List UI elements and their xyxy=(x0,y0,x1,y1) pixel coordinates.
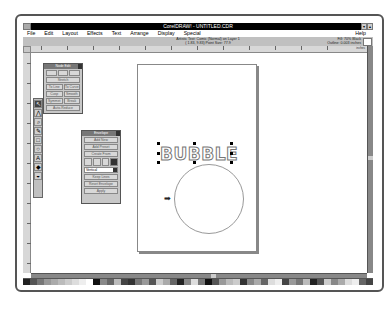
selection-handle[interactable] xyxy=(230,161,233,164)
palette-swatch[interactable] xyxy=(107,279,114,285)
menu-display[interactable]: Display xyxy=(158,30,175,37)
palette-swatch[interactable] xyxy=(114,279,121,285)
palette-swatch[interactable] xyxy=(65,279,72,285)
menu-text[interactable]: Text xyxy=(112,30,122,37)
palette-swatch[interactable] xyxy=(135,279,142,285)
palette-swatch[interactable] xyxy=(128,279,135,285)
text-tool-icon[interactable]: A xyxy=(34,154,42,162)
cusp-button[interactable]: Cusp xyxy=(46,91,63,97)
ruler-corner[interactable] xyxy=(23,46,31,53)
menu-help[interactable]: Help xyxy=(355,30,366,37)
pencil-tool-icon[interactable]: ✎ xyxy=(34,127,42,135)
menu-arrange[interactable]: Arrange xyxy=(130,30,148,37)
auto-reduce-button[interactable]: Auto-Reduce xyxy=(46,105,80,111)
vertical-scroll-thumb[interactable] xyxy=(368,156,373,160)
envelope-straight-line-icon[interactable] xyxy=(84,158,92,166)
palette-swatch[interactable] xyxy=(282,279,289,285)
menu-special[interactable]: Special xyxy=(184,30,201,37)
palette-swatch[interactable] xyxy=(233,279,240,285)
ellipse-object[interactable] xyxy=(174,164,244,234)
palette-swatch[interactable] xyxy=(219,279,226,285)
palette-swatch[interactable] xyxy=(51,279,58,285)
pick-tool-icon[interactable]: ↖ xyxy=(34,100,42,108)
to-line-button[interactable]: To Line xyxy=(46,84,63,90)
palette-swatch[interactable] xyxy=(184,279,191,285)
envelope-unconstrained-icon[interactable] xyxy=(110,158,118,166)
zoom-tool-icon[interactable]: ⌕ xyxy=(34,118,42,126)
palette-swatch[interactable] xyxy=(205,279,212,285)
node-delete-icon[interactable] xyxy=(58,70,69,76)
rollup-title[interactable]: Envelope xyxy=(82,131,120,136)
stretch-button[interactable]: Stretch xyxy=(46,77,80,83)
palette-swatch[interactable] xyxy=(317,279,324,285)
palette-swatch[interactable] xyxy=(170,279,177,285)
reset-envelope-button[interactable]: Reset Envelope xyxy=(84,181,118,187)
menu-file[interactable]: File xyxy=(27,30,35,37)
vertical-scrollbar[interactable] xyxy=(367,46,373,273)
palette-swatch[interactable] xyxy=(72,279,79,285)
maximize-button[interactable]: ▴ xyxy=(367,23,373,30)
palette-swatch[interactable] xyxy=(240,279,247,285)
menu-layout[interactable]: Layout xyxy=(62,30,78,37)
palette-swatch[interactable] xyxy=(93,279,100,285)
ellipse-tool-icon[interactable]: ○ xyxy=(34,145,42,153)
palette-swatch[interactable] xyxy=(345,279,352,285)
palette-swatch[interactable] xyxy=(303,279,310,285)
selection-handle[interactable] xyxy=(193,142,196,145)
color-palette[interactable] xyxy=(23,278,373,284)
mapping-mode-select[interactable]: Vertical xyxy=(84,167,118,173)
symmet-button[interactable]: Symmet xyxy=(46,98,63,104)
palette-swatch[interactable] xyxy=(296,279,303,285)
palette-swatch[interactable] xyxy=(366,279,373,285)
palette-swatch[interactable] xyxy=(289,279,296,285)
palette-swatch[interactable] xyxy=(156,279,163,285)
selection-handle[interactable] xyxy=(230,142,233,145)
shape-tool-icon[interactable]: ⋀ xyxy=(34,109,42,117)
palette-swatch[interactable] xyxy=(30,279,37,285)
break-button[interactable]: Break xyxy=(64,98,81,104)
palette-swatch[interactable] xyxy=(58,279,65,285)
palette-swatch[interactable] xyxy=(261,279,268,285)
system-menu-button[interactable] xyxy=(23,23,31,30)
artistic-text-object[interactable]: BUBBLE xyxy=(160,144,238,164)
create-from-button[interactable]: Create From xyxy=(84,151,118,157)
palette-swatch[interactable] xyxy=(324,279,331,285)
palette-swatch[interactable] xyxy=(37,279,44,285)
palette-swatch[interactable] xyxy=(23,279,30,285)
palette-swatch[interactable] xyxy=(163,279,170,285)
to-curve-button[interactable]: To Curve xyxy=(64,84,81,90)
selection-handle[interactable] xyxy=(157,152,160,155)
palette-swatch[interactable] xyxy=(177,279,184,285)
palette-swatch[interactable] xyxy=(352,279,359,285)
palette-swatch[interactable] xyxy=(310,279,317,285)
palette-swatch[interactable] xyxy=(100,279,107,285)
add-new-button[interactable]: Add New xyxy=(84,137,118,143)
fill-tool-icon[interactable]: ◒ xyxy=(34,172,42,180)
horizontal-ruler[interactable]: inches xyxy=(31,46,367,53)
palette-swatch[interactable] xyxy=(149,279,156,285)
palette-swatch[interactable] xyxy=(247,279,254,285)
envelope-two-curves-icon[interactable] xyxy=(102,158,110,166)
selection-handle[interactable] xyxy=(193,161,196,164)
selection-handle[interactable] xyxy=(230,152,233,155)
palette-swatch[interactable] xyxy=(275,279,282,285)
apply-button[interactable]: Apply xyxy=(84,188,118,194)
palette-swatch[interactable] xyxy=(86,279,93,285)
keep-lines-button[interactable]: Keep Lines xyxy=(84,174,118,180)
palette-swatch[interactable] xyxy=(338,279,345,285)
selection-handle[interactable] xyxy=(157,161,160,164)
palette-swatch[interactable] xyxy=(121,279,128,285)
menu-effects[interactable]: Effects xyxy=(87,30,103,37)
vertical-ruler[interactable] xyxy=(23,53,31,273)
palette-swatch[interactable] xyxy=(254,279,261,285)
node-add-icon[interactable] xyxy=(46,70,57,76)
rollup-title[interactable]: Node Edit xyxy=(44,64,82,69)
add-preset-button[interactable]: Add Preset xyxy=(84,144,118,150)
palette-swatch[interactable] xyxy=(331,279,338,285)
palette-swatch[interactable] xyxy=(212,279,219,285)
palette-swatch[interactable] xyxy=(79,279,86,285)
node-join-icon[interactable] xyxy=(69,70,80,76)
rollup-collapse-button[interactable] xyxy=(116,131,120,136)
palette-swatch[interactable] xyxy=(198,279,205,285)
rollup-collapse-button[interactable] xyxy=(78,64,82,69)
